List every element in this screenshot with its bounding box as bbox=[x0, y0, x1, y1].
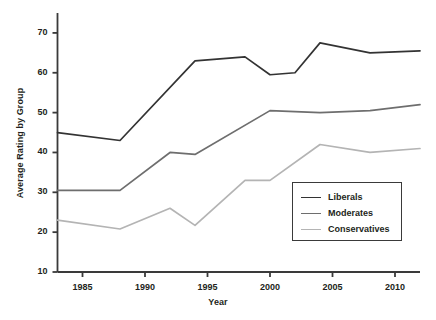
series-line-moderates bbox=[58, 105, 421, 191]
legend-label: Liberals bbox=[328, 192, 363, 202]
x-tick-label: 1985 bbox=[61, 282, 105, 292]
legend-item-liberals: Liberals bbox=[301, 189, 401, 205]
series-line-liberals bbox=[58, 43, 421, 141]
x-tick-label: 1990 bbox=[123, 282, 167, 292]
legend-item-moderates: Moderates bbox=[301, 205, 401, 221]
y-tick-label: 10 bbox=[22, 266, 48, 276]
y-tick-label: 40 bbox=[22, 146, 48, 156]
x-tick-label: 2000 bbox=[248, 282, 292, 292]
legend-swatch-icon bbox=[301, 229, 321, 230]
x-tick-label: 2010 bbox=[373, 282, 417, 292]
x-tick-label: 2005 bbox=[311, 282, 355, 292]
legend-label: Moderates bbox=[328, 208, 373, 218]
y-tick-label: 50 bbox=[22, 107, 48, 117]
plot-area bbox=[0, 0, 436, 320]
y-tick-label: 60 bbox=[22, 67, 48, 77]
y-tick-label: 20 bbox=[22, 226, 48, 236]
line-chart: Average Rating by Group Year 10203040506… bbox=[0, 0, 436, 320]
legend-label: Conservatives bbox=[328, 224, 390, 234]
x-tick-label: 1995 bbox=[186, 282, 230, 292]
chart-legend: LiberalsModeratesConservatives bbox=[292, 182, 402, 241]
legend-item-conservatives: Conservatives bbox=[301, 221, 401, 237]
y-tick-label: 30 bbox=[22, 186, 48, 196]
legend-swatch-icon bbox=[301, 197, 321, 198]
y-tick-label: 70 bbox=[22, 27, 48, 37]
legend-swatch-icon bbox=[301, 213, 321, 214]
